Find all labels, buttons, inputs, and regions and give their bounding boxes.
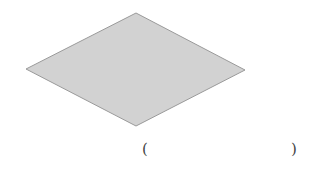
close-parenthesis: ) <box>291 142 297 157</box>
rhombus-shape <box>26 13 245 126</box>
open-parenthesis: ( <box>142 142 148 157</box>
rhombus-figure <box>0 0 314 177</box>
